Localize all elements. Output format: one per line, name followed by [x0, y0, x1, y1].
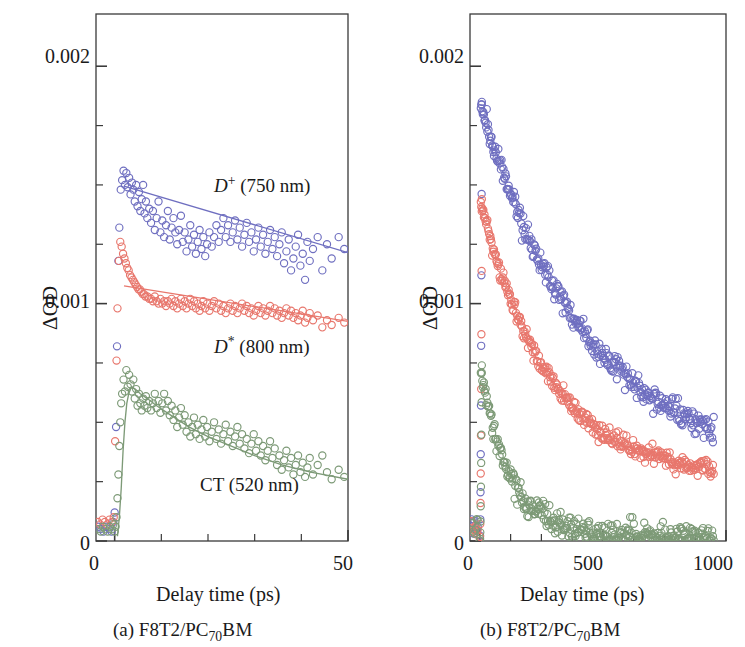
data-point — [314, 312, 321, 319]
panel-a-xtick-0: 0 — [89, 552, 99, 575]
data-point — [319, 267, 326, 274]
data-point — [138, 196, 145, 203]
data-point — [257, 243, 264, 250]
data-point — [341, 473, 348, 480]
panel-a: ΔOD 0.002 0.001 0 0 50 Delay time (ps) D… — [0, 0, 380, 647]
data-point — [478, 342, 485, 349]
data-point — [615, 428, 622, 435]
data-point — [314, 234, 321, 241]
data-point — [220, 431, 227, 438]
data-point — [250, 431, 257, 438]
data-point — [292, 243, 299, 250]
figure-root: ΔOD 0.002 0.001 0 0 50 Delay time (ps) D… — [0, 0, 745, 647]
data-point — [245, 238, 252, 245]
series-2 — [468, 196, 717, 545]
data-point — [164, 207, 171, 214]
data-point — [630, 520, 637, 527]
data-point — [248, 440, 255, 447]
data-point — [248, 229, 255, 236]
data-point — [290, 255, 297, 262]
data-point — [117, 186, 124, 193]
data-point — [271, 445, 278, 452]
data-point — [314, 461, 321, 468]
data-point — [200, 234, 207, 241]
panel-a-ytick-0.002: 0.002 — [16, 45, 90, 68]
panel-b-ytick-0.001: 0.001 — [396, 290, 464, 313]
panel-b-xtick-0: 0 — [463, 552, 473, 575]
caption-head: (a) F8T2/PC — [113, 619, 209, 640]
data-point — [112, 423, 119, 430]
data-point — [266, 438, 273, 445]
data-point — [264, 238, 271, 245]
data-point — [119, 250, 126, 257]
data-point — [613, 376, 620, 383]
data-point — [215, 238, 222, 245]
data-point — [238, 243, 245, 250]
data-point — [231, 433, 238, 440]
data-point — [273, 253, 280, 260]
data-point — [319, 452, 326, 459]
data-point — [301, 473, 308, 480]
series-label-wavelength: (750 nm) — [235, 175, 310, 196]
panel-b-ytick-0: 0 — [396, 532, 464, 555]
data-point — [280, 260, 287, 267]
panel-a-caption: (a) F8T2/PC70BM — [113, 619, 253, 645]
data-point — [113, 357, 120, 364]
data-point — [241, 231, 248, 238]
data-point — [227, 238, 234, 245]
data-point — [210, 419, 217, 426]
caption-head: (b) F8T2/PC — [480, 619, 577, 640]
data-point — [477, 483, 484, 490]
data-point — [231, 217, 238, 224]
data-point — [113, 343, 120, 350]
data-point — [125, 267, 132, 274]
panel-a-series-label-donor-cation: D+ (750 nm) — [214, 173, 310, 197]
data-point — [117, 238, 124, 245]
caption-subscript: 70 — [577, 629, 591, 644]
data-point — [278, 466, 285, 473]
data-point — [328, 321, 335, 328]
data-point — [304, 464, 311, 471]
data-point — [287, 267, 294, 274]
data-point — [255, 224, 262, 231]
data-point — [341, 319, 348, 326]
data-point — [478, 362, 485, 369]
data-point — [155, 198, 162, 205]
data-point — [710, 413, 717, 420]
caption-tail: BM — [590, 619, 621, 640]
data-point — [297, 262, 304, 269]
data-point — [222, 421, 229, 428]
caption-subscript: 70 — [209, 629, 223, 644]
data-point — [236, 224, 243, 231]
data-point — [269, 245, 276, 252]
data-point — [202, 253, 209, 260]
data-point — [117, 419, 124, 426]
data-point — [234, 236, 241, 243]
data-point — [122, 260, 129, 267]
data-point — [217, 226, 224, 233]
data-point — [328, 255, 335, 262]
data-point — [264, 447, 271, 454]
data-point — [190, 414, 197, 421]
series-label-superscript: * — [228, 334, 235, 349]
data-point — [151, 390, 158, 397]
series-label-wavelength: (800 nm) — [235, 336, 310, 357]
data-point — [140, 181, 147, 188]
data-point — [659, 518, 666, 525]
data-point — [208, 428, 215, 435]
data-point — [187, 222, 194, 229]
caption-tail: BM — [222, 619, 253, 640]
data-point — [229, 229, 236, 236]
data-point — [306, 454, 313, 461]
data-point — [319, 324, 326, 331]
data-point — [116, 224, 123, 231]
data-point — [200, 416, 207, 423]
series-label-symbol: D — [214, 336, 228, 357]
panel-a-xtick-50: 50 — [333, 552, 353, 575]
fit-line — [117, 387, 348, 537]
data-point — [294, 452, 301, 459]
data-point — [259, 231, 266, 238]
data-point — [250, 248, 257, 255]
data-point — [546, 502, 553, 509]
series-label-symbol: D — [214, 175, 228, 196]
